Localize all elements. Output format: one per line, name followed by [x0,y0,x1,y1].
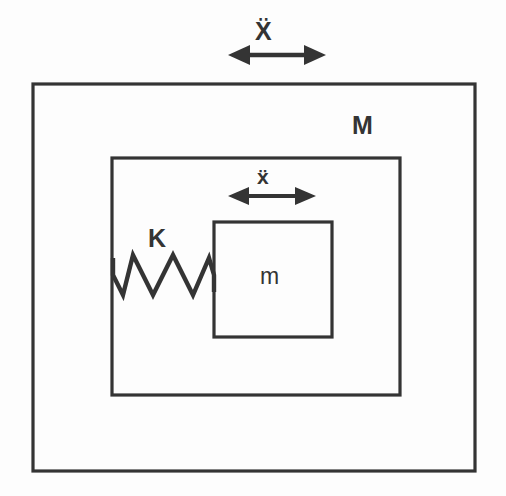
outer-acceleration-arrow [228,45,326,65]
inner-mass-label: m [260,265,280,288]
inner-frame-box [112,158,400,395]
inner-acceleration-label: ẍ [257,166,269,187]
figure-canvas: Ẍ M ẍ K m [0,0,506,496]
outer-acceleration-label: Ẍ [255,19,272,44]
spring-element [113,255,214,295]
mass-spring-diagram [0,0,506,496]
spring-label: K [148,226,167,251]
inner-acceleration-arrow [228,187,316,205]
outer-mass-box [33,84,475,471]
outer-mass-label: M [352,113,373,138]
